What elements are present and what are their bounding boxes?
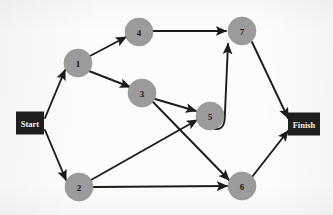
node-label-4: 4 — [137, 28, 142, 38]
edge-start-to-2 — [45, 130, 66, 180]
node-label-2: 2 — [77, 183, 82, 193]
node-2[interactable]: 2 — [65, 173, 93, 201]
edge-2-to-5 — [91, 120, 197, 180]
edge-1-to-4 — [90, 37, 126, 56]
terminal-finish[interactable]: Finish — [288, 113, 320, 136]
edge-7-to-finish — [252, 42, 288, 118]
node-label-1: 1 — [76, 59, 81, 69]
terminal-start[interactable]: Start — [16, 112, 44, 135]
node-1[interactable]: 1 — [64, 49, 92, 77]
node-6[interactable]: 6 — [228, 172, 256, 200]
terminal-label-start: Start — [21, 119, 40, 129]
node-4[interactable]: 4 — [125, 18, 153, 46]
node-label-6: 6 — [240, 182, 245, 192]
edge-1-to-3 — [89, 71, 130, 87]
edge-start-to-1 — [45, 70, 65, 118]
terminal-label-finish: Finish — [293, 120, 316, 130]
network-graph: 1234567 StartFinish — [0, 0, 333, 215]
edge-2-to-6 — [93, 186, 227, 187]
network-diagram-canvas: 1234567 StartFinish — [0, 0, 333, 215]
node-5[interactable]: 5 — [196, 102, 224, 130]
node-3[interactable]: 3 — [128, 79, 156, 107]
node-label-3: 3 — [140, 89, 145, 99]
node-label-5: 5 — [208, 112, 213, 122]
node-label-7: 7 — [240, 27, 245, 37]
node-7[interactable]: 7 — [228, 17, 256, 45]
edge-6-to-finish — [252, 131, 288, 177]
terminals-layer: StartFinish — [16, 112, 320, 136]
